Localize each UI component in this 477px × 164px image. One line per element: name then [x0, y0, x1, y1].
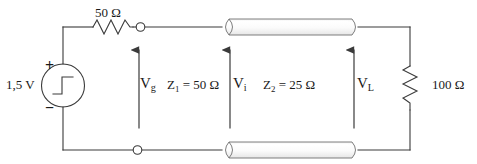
impedance-z2-base: Z: [263, 77, 271, 92]
series-resistor-label: 50 Ω: [95, 6, 121, 19]
circuit-diagram: 1,5 V + − 50 Ω 100 Ω Vg Z1 = 50 Ω Vi Z2 …: [0, 0, 477, 164]
voltage-vl-base: V: [357, 75, 368, 91]
impedance-z1-base: Z: [167, 77, 175, 92]
impedance-z1-label: Z1 = 50 Ω: [167, 78, 219, 94]
impedance-z2-label: Z2 = 25 Ω: [263, 78, 315, 94]
step-function-icon: [53, 77, 73, 94]
voltage-vl-subscript: L: [368, 82, 374, 93]
voltage-vl-label: VL: [357, 76, 374, 93]
voltage-vg-base: V: [140, 75, 151, 91]
source-value-label: 1,5 V: [6, 78, 35, 91]
load-resistor-symbol: [403, 66, 417, 110]
terminal-node-top: [136, 23, 145, 32]
impedance-z2-value: = 25 Ω: [275, 77, 315, 92]
series-resistor-symbol: [93, 20, 133, 34]
voltage-vi-label: Vi: [233, 76, 247, 93]
transmission-line-bottom: [226, 142, 356, 158]
voltage-vi-base: V: [233, 75, 244, 91]
terminal-node-bottom: [133, 146, 142, 155]
voltage-vg-subscript: g: [151, 82, 156, 93]
transmission-line-top: [226, 19, 356, 35]
load-resistor-label: 100 Ω: [432, 78, 464, 91]
impedance-z1-value: = 50 Ω: [179, 77, 219, 92]
source-polarity-minus: −: [45, 100, 54, 116]
source-polarity-plus: +: [45, 58, 54, 74]
voltage-vg-label: Vg: [140, 76, 156, 93]
voltage-vi-subscript: i: [244, 82, 247, 93]
